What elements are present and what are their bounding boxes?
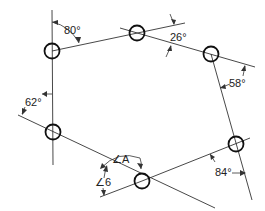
arrowhead-icon (241, 65, 246, 71)
angle-label-62: 62° (25, 96, 42, 108)
arrowhead-icon (137, 163, 143, 169)
arrowhead-icon (171, 19, 176, 25)
traverse-line-6-5 (142, 138, 250, 181)
angle-label-A: ∠A (112, 153, 130, 165)
angle-label-84: 84° (215, 166, 232, 178)
traverse-line-2-3 (120, 28, 255, 67)
angle-label-80: 80° (64, 24, 81, 36)
arrowhead-icon (75, 37, 81, 43)
traverse-line-1-4 (52, 10, 53, 165)
arrowhead-icon (22, 108, 27, 115)
angle-label-26: 26° (170, 31, 187, 43)
arrowhead-icon (167, 45, 172, 51)
arrowhead-icon (42, 91, 47, 97)
traverse-diagram: 80° 26° 58° 84° 62° ∠A ∠6 (0, 0, 265, 211)
arrowhead-icon (210, 154, 215, 160)
traverse-line-3-6 (211, 54, 252, 200)
angle-label-6: ∠6 (95, 176, 111, 188)
angle-label-58: 58° (229, 77, 246, 89)
